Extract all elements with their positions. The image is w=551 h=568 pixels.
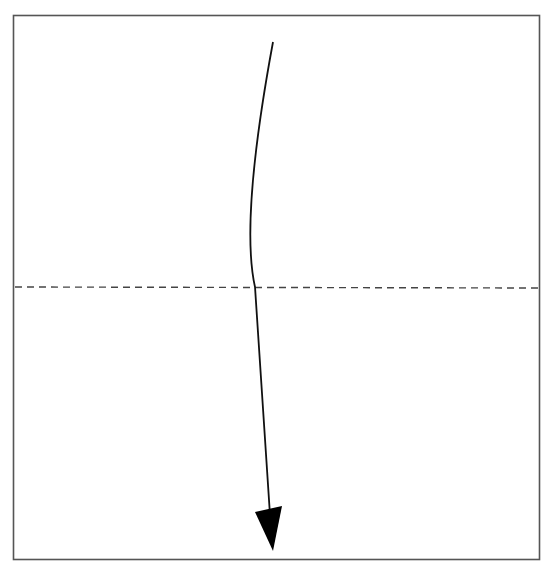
- diagram-canvas: [0, 0, 551, 568]
- fold-diagram: [0, 0, 551, 568]
